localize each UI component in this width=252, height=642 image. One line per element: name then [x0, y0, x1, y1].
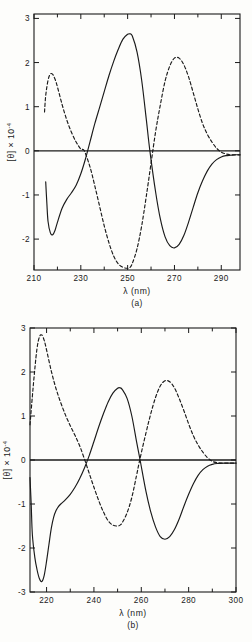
y-tick-label: -3 [18, 588, 26, 597]
x-tick-label: 210 [27, 274, 42, 283]
x-tick-label: 260 [134, 596, 149, 605]
x-axis-title: λ (nm) [123, 286, 150, 296]
svg-text:[θ] × 10-4: [θ] × 10-4 [2, 441, 12, 480]
y-tick-label: 0 [21, 456, 26, 465]
y-tick-label: -2 [22, 235, 30, 244]
y-tick-label: 2 [21, 368, 26, 377]
plot-a-svg: 3210-1-2210230250270290λ (nm)(a)[θ] × 10… [0, 0, 252, 320]
x-tick-label: 280 [181, 596, 196, 605]
x-tick-label: 270 [167, 274, 182, 283]
y-tick-label: 0 [25, 147, 30, 156]
panel-caption: (b) [127, 620, 139, 630]
y-axis-title: [θ] × 10-4 [6, 123, 16, 162]
y-tick-label: 2 [25, 59, 30, 68]
svg-text:[θ] × 10-4: [θ] × 10-4 [6, 123, 16, 162]
curve-dashed-curve [30, 335, 236, 526]
panel-caption: (a) [131, 298, 143, 308]
y-tick-label: -1 [22, 191, 30, 200]
curve-solid-curve [30, 388, 236, 582]
x-tick-label: 290 [214, 274, 229, 283]
x-tick-label: 300 [229, 596, 244, 605]
x-tick-label: 240 [86, 596, 101, 605]
panel-a: 3210-1-2210230250270290λ (nm)(a)[θ] × 10… [0, 0, 252, 320]
y-tick-label: 3 [21, 324, 26, 333]
x-axis-title: λ (nm) [119, 608, 146, 618]
y-tick-label: -2 [18, 544, 26, 553]
y-tick-label: 1 [21, 412, 26, 421]
y-tick-label: 3 [25, 14, 30, 23]
y-axis-title: [θ] × 10-4 [2, 441, 12, 480]
figure-page: 3210-1-2210230250270290λ (nm)(a)[θ] × 10… [0, 0, 252, 642]
x-tick-label: 230 [73, 274, 88, 283]
plot-b-svg: 3210-1-2-3220240260280300λ (nm)(b)[θ] × … [0, 320, 252, 642]
y-tick-label: 1 [25, 103, 30, 112]
x-tick-label: 250 [120, 274, 135, 283]
panel-b: 3210-1-2-3220240260280300λ (nm)(b)[θ] × … [0, 320, 252, 642]
y-tick-label: -1 [18, 500, 26, 509]
x-tick-label: 220 [39, 596, 54, 605]
